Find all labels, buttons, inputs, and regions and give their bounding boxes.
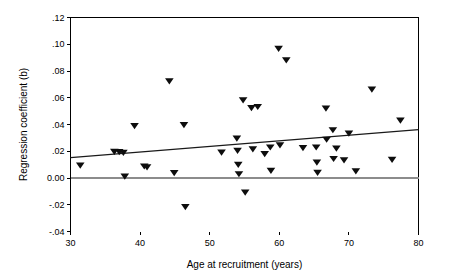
data-point-marker xyxy=(217,149,226,155)
y-tick-label: 0.00 xyxy=(47,173,65,183)
data-point-marker xyxy=(249,146,258,152)
data-point-marker xyxy=(239,97,248,103)
data-point-marker xyxy=(340,157,349,163)
data-point-marker xyxy=(329,156,338,162)
y-axis-title: Regression coefficient (b) xyxy=(18,68,29,181)
data-point-marker xyxy=(312,144,321,150)
y-axis-tick-group: -.04-.020.00.02.04.06.08.10.12 xyxy=(47,13,71,237)
y-tick-label: -.02 xyxy=(49,200,65,210)
data-point-marker xyxy=(120,173,129,179)
plot-frame xyxy=(71,18,419,232)
data-point-marker xyxy=(322,105,331,111)
data-point-marker xyxy=(234,162,243,168)
data-point-marker xyxy=(396,118,405,124)
data-point-marker xyxy=(332,146,341,152)
data-point-marker xyxy=(329,127,338,133)
y-tick-label: .10 xyxy=(52,39,65,49)
data-point-marker xyxy=(181,204,190,210)
y-tick-label: .06 xyxy=(52,93,65,103)
x-tick-label: 50 xyxy=(205,238,215,248)
data-point-marker xyxy=(241,190,250,196)
data-point-marker xyxy=(299,145,308,151)
x-tick-label: 60 xyxy=(274,238,284,248)
data-point-marker xyxy=(247,105,256,111)
data-point-marker xyxy=(233,135,242,141)
data-point-marker xyxy=(165,78,174,84)
x-axis-tick-group: 304050607080 xyxy=(65,232,423,248)
data-point-marker xyxy=(313,170,322,176)
y-tick-label: .08 xyxy=(52,66,65,76)
data-point-marker xyxy=(352,168,361,174)
y-tick-label: .12 xyxy=(52,13,65,23)
data-point-marker xyxy=(313,160,322,166)
data-point-marker xyxy=(235,171,244,177)
data-point-marker xyxy=(233,148,242,154)
chart-canvas: -.04-.020.00.02.04.06.08.10.12 304050607… xyxy=(0,0,456,277)
scatter-plot-figure: -.04-.020.00.02.04.06.08.10.12 304050607… xyxy=(0,0,456,277)
data-point-marker xyxy=(267,168,276,174)
y-tick-label: .02 xyxy=(52,146,65,156)
data-point-marker xyxy=(274,46,283,52)
x-tick-label: 30 xyxy=(65,238,75,248)
axis-frame xyxy=(71,18,419,232)
data-point-marker xyxy=(76,162,85,168)
data-point-marker xyxy=(368,86,377,92)
x-axis-title: Age at recruitment (years) xyxy=(187,259,303,270)
data-point-marker xyxy=(282,57,291,63)
data-point-marker xyxy=(180,122,189,128)
y-tick-label: .04 xyxy=(52,120,65,130)
x-tick-label: 80 xyxy=(413,238,423,248)
data-point-marker xyxy=(322,137,331,143)
data-point-marker xyxy=(276,142,285,148)
x-tick-label: 70 xyxy=(344,238,354,248)
data-point-marker xyxy=(253,104,262,110)
data-point-marker xyxy=(130,123,139,129)
data-point-marker xyxy=(170,170,179,176)
data-point-marker xyxy=(388,157,397,163)
data-point-marker xyxy=(266,144,275,150)
y-tick-label: -.04 xyxy=(49,227,65,237)
data-point-group xyxy=(76,46,405,211)
x-tick-label: 40 xyxy=(135,238,145,248)
data-point-marker xyxy=(260,151,269,157)
